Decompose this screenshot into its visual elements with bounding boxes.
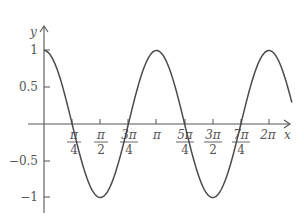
x-tick-pi-over-2: π 2 bbox=[94, 128, 108, 157]
y-tick-minus-1: −1 bbox=[20, 190, 38, 204]
svg-text:π: π bbox=[96, 128, 106, 142]
svg-text:4: 4 bbox=[125, 143, 133, 157]
x-tick-7pi-over-4: 7π 4 bbox=[232, 128, 250, 157]
svg-text:2: 2 bbox=[97, 143, 105, 157]
x-tick-3pi-over-4: 3π 4 bbox=[120, 128, 138, 157]
axes bbox=[28, 26, 290, 213]
svg-text:4: 4 bbox=[237, 143, 245, 157]
x-tick-2pi: 2π bbox=[259, 128, 277, 142]
y-axis-label: y bbox=[29, 25, 37, 39]
y-tick-0.5: 0.5 bbox=[19, 80, 38, 94]
svg-text:2: 2 bbox=[209, 143, 217, 157]
y-tick-1: 1 bbox=[30, 43, 38, 57]
x-tick-3pi-over-2: 3π 2 bbox=[204, 128, 222, 157]
x-ticks: π 4 π 2 3π 4 π 5π 4 3π 2 bbox=[67, 119, 277, 157]
svg-text:7π: 7π bbox=[233, 128, 250, 142]
x-axis-label: x bbox=[284, 128, 291, 142]
svg-text:4: 4 bbox=[181, 143, 189, 157]
y-tick-minus-0.5: −0.5 bbox=[9, 154, 38, 168]
cosine-chart: y x 1 0.5 −0.5 −1 π 4 π 2 bbox=[0, 0, 304, 216]
x-tick-pi: π bbox=[152, 128, 162, 142]
svg-text:3π: 3π bbox=[205, 128, 222, 142]
